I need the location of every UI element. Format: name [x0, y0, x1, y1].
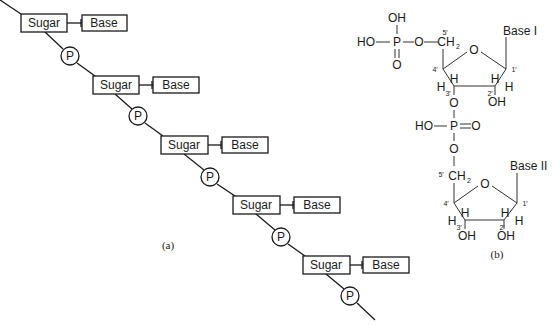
svg-text:H: H: [437, 80, 446, 94]
panel-b-structure: OH HO P O O 5′ CH 2 O Base I 4′ 1′ H H H…: [357, 11, 547, 243]
top-p: P: [393, 35, 401, 49]
nucleotide-unit-3: Sugar Base P: [161, 136, 268, 186]
svg-text:1′: 1′: [511, 66, 517, 73]
svg-text:O: O: [449, 96, 458, 110]
svg-text:H: H: [450, 72, 459, 86]
phosphate-label: P: [66, 49, 74, 63]
svg-text:5′: 5′: [438, 171, 444, 178]
svg-text:O: O: [449, 142, 458, 156]
phosphate-label: P: [346, 289, 354, 303]
svg-text:H: H: [448, 214, 457, 228]
top-o-double: O: [392, 58, 401, 72]
svg-text:CH: CH: [437, 35, 454, 49]
sugar-label: Sugar: [168, 138, 200, 152]
nucleotide-unit-5: Sugar Base P: [303, 256, 409, 305]
svg-text:HO: HO: [415, 119, 433, 133]
top-o-ester: O: [414, 35, 423, 49]
svg-text:H: H: [461, 206, 470, 220]
oh-2prime-1: OH: [488, 95, 506, 109]
base-label: Base: [90, 16, 118, 30]
sugar-label: Sugar: [310, 258, 342, 272]
svg-text:P: P: [450, 119, 458, 133]
nucleotide-unit-4: Sugar Base P: [233, 196, 340, 246]
nucleic-acid-diagram: Sugar Base P Sugar Base P Sugar Base P S…: [0, 0, 555, 325]
base-ii-label: Base II: [510, 159, 547, 173]
svg-text:2: 2: [467, 177, 471, 184]
base-label: Base: [231, 138, 259, 152]
ring-o-2: O: [480, 177, 489, 191]
base-label: Base: [303, 198, 331, 212]
oh-2prime-2: OH: [497, 229, 515, 243]
top-ho: HO: [357, 35, 375, 49]
top-oh: OH: [388, 11, 406, 25]
svg-text:4′: 4′: [443, 200, 449, 207]
sugar-label: Sugar: [240, 198, 272, 212]
panel-a-caption: (a): [162, 239, 175, 252]
sugar-label: Sugar: [100, 78, 132, 92]
oh-3prime-2: OH: [458, 229, 476, 243]
svg-text:1′: 1′: [522, 200, 528, 207]
svg-text:4′: 4′: [432, 66, 438, 73]
nucleotide-unit-1: Sugar Base P: [21, 14, 127, 65]
phosphate-label: P: [206, 170, 214, 184]
svg-text:2: 2: [456, 43, 460, 50]
base-label: Base: [372, 258, 400, 272]
panel-b-caption: (b): [491, 248, 504, 261]
base-label: Base: [162, 78, 190, 92]
sugar-label: Sugar: [28, 16, 60, 30]
svg-text:CH: CH: [448, 169, 465, 183]
phosphate-label: P: [277, 230, 285, 244]
base-i-label: Base I: [503, 24, 537, 38]
svg-text:H: H: [491, 72, 500, 86]
svg-text:H: H: [515, 214, 524, 228]
nucleotide-unit-2: Sugar Base P: [93, 76, 199, 125]
svg-text:H: H: [501, 206, 510, 220]
svg-text:H: H: [505, 80, 514, 94]
ring-o-1: O: [469, 43, 478, 57]
phosphate-label: P: [134, 109, 142, 123]
svg-text:O: O: [471, 119, 480, 133]
